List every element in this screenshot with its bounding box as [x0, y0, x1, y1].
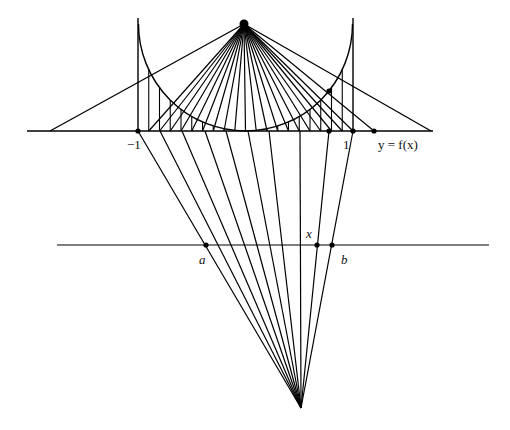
- top-ray: [160, 24, 245, 131]
- ray-to-bottom-apex: [160, 131, 301, 408]
- diagram-canvas: −1 1 y = f(x) a b x: [0, 0, 510, 430]
- top-ray: [244, 24, 332, 131]
- ray-to-bottom-apex: [182, 131, 301, 408]
- top-ray: [244, 24, 342, 131]
- second-line-point: [314, 242, 319, 247]
- top-ray: [149, 24, 244, 131]
- curve-label-text: y = f(x): [378, 137, 418, 152]
- top-apex-point: [240, 20, 249, 29]
- ray-to-bottom-apex: [269, 131, 301, 408]
- outer-ray-left: [50, 24, 244, 131]
- label-curve-y-equals-f-x: y = f(x): [378, 137, 418, 153]
- geometric-construction: [0, 0, 510, 430]
- label-b: b: [341, 252, 348, 268]
- curve-point: [326, 88, 331, 93]
- second-line-point: [203, 242, 208, 247]
- second-line-point: [329, 242, 334, 247]
- label-a: a: [199, 252, 206, 268]
- ray-to-bottom-apex: [226, 131, 301, 408]
- ray-to-bottom-apex: [301, 131, 329, 408]
- label-minus-one: −1: [127, 137, 141, 153]
- axis-point: [326, 128, 331, 133]
- label-x: x: [306, 226, 312, 242]
- axis-point: [350, 128, 355, 133]
- label-one: 1: [343, 137, 350, 153]
- axis-point: [371, 128, 376, 133]
- ray-to-bottom-apex: [301, 131, 353, 408]
- top-ray: [203, 24, 245, 131]
- ray-to-bottom-apex: [248, 131, 301, 408]
- axis-point: [135, 128, 140, 133]
- ray-to-bottom-apex: [300, 131, 301, 408]
